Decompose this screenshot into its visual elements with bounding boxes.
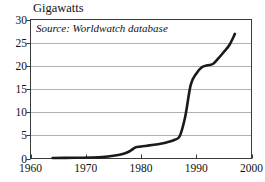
x-axis-tick-label: 1960	[8, 162, 54, 175]
x-axis-tick-label: 1990	[173, 162, 219, 175]
y-axis-tick-label: 30	[0, 14, 27, 26]
y-tickmarks-group	[27, 21, 31, 160]
x-axis-tick-label: 2000	[229, 162, 265, 175]
y-axis-tick-value: 5	[3, 129, 27, 141]
y-axis-tick-label: 20	[0, 60, 27, 72]
y-axis-tick-label: 10	[0, 106, 27, 118]
data-series-line	[53, 34, 235, 158]
x-axis-tick-label: 1980	[118, 162, 164, 175]
wind-capacity-chart: Gigawatts Source: Worldwatch database 05…	[0, 0, 264, 182]
y-axis-tick-label: 5	[0, 129, 27, 141]
x-axis-tick-label: 1970	[63, 162, 109, 175]
y-axis-tick-value: 25	[3, 37, 27, 49]
source-annotation: Source: Worldwatch database	[36, 21, 168, 35]
y-axis-tick-value: 30	[3, 14, 27, 26]
y-axis-tick-label: 15	[0, 83, 27, 95]
y-axis-tick-value: 10	[3, 106, 27, 118]
y-axis-tick-value: 20	[3, 60, 27, 72]
y-axis-tick-value: 15	[3, 83, 27, 95]
y-axis-tick-label: 25	[0, 37, 27, 49]
